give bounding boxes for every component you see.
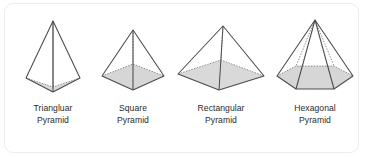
caption-line-2: Pyramid xyxy=(117,115,149,127)
pyramid-item-triangular: Triangluar Pyramid xyxy=(13,10,93,148)
caption-line-1: Triangluar xyxy=(34,103,73,115)
caption-line-2: Pyramid xyxy=(198,115,245,127)
pyramid-caption-hexagonal: Hexagonal Pyramid xyxy=(294,103,336,126)
rectangular-pyramid-drawing xyxy=(173,10,269,98)
pyramid-caption-rectangular: Rectangular Pyramid xyxy=(198,103,245,126)
pyramid-item-hexagonal: Hexagonal Pyramid xyxy=(269,10,361,148)
hexagonal-pyramid-base-fill xyxy=(277,66,353,89)
triangular-pyramid-drawing xyxy=(13,10,93,98)
pyramid-caption-triangular: Triangluar Pyramid xyxy=(34,103,73,126)
pyramids-figure-card: Triangluar Pyramid Square Pyramid xyxy=(4,3,359,153)
hexagonal-pyramid-drawing xyxy=(269,10,361,98)
caption-line-2: Pyramid xyxy=(294,115,336,127)
pyramid-caption-square: Square Pyramid xyxy=(117,103,149,126)
caption-line-2: Pyramid xyxy=(34,115,73,127)
pyramid-row: Triangluar Pyramid Square Pyramid xyxy=(5,4,358,152)
pyramid-item-square: Square Pyramid xyxy=(93,10,173,148)
caption-line-1: Square xyxy=(117,103,149,115)
caption-line-1: Hexagonal xyxy=(294,103,336,115)
caption-line-1: Rectangular xyxy=(198,103,245,115)
pyramid-item-rectangular: Rectangular Pyramid xyxy=(173,10,269,148)
square-pyramid-drawing xyxy=(93,10,173,98)
